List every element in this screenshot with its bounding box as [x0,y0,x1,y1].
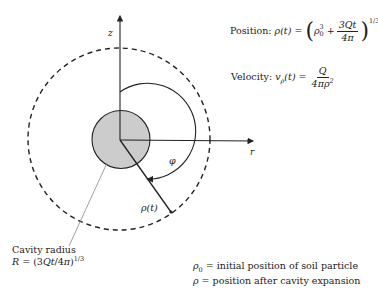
position-equation: Position: ρ(t) = (ρ30 +3Qt4π)1/3 [230,20,378,43]
position-fraction: 3Qt4π [337,20,359,43]
rho0-subscript: 0 [320,31,324,38]
velocity-lhs-rest: (t) = [284,71,306,82]
cavity-leader-line [69,163,107,246]
plus-sign: + [327,25,335,36]
phi-label: φ [169,156,176,166]
legend-text: = initial position of soil particle [203,260,358,271]
z-axis-label: z [108,29,113,38]
velocity-equation: Velocity: vρ(t) = Q4πρ2 [231,66,336,89]
open-paren: ( [305,18,314,43]
formula-mid: /4 [55,256,64,267]
cavity-expansion-diagram: z r φ ρ(t) Position: ρ(t) = (ρ30 +3Qt4π)… [0,0,378,294]
formula-eq: = (3 [19,256,43,267]
velocity-label: Velocity: [231,71,272,82]
formula-exponent: 1/3 [74,255,84,263]
position-exponent: 1/3 [369,17,378,25]
legend-text: = position after cavity expansion [199,275,361,286]
position-denominator: 4π [341,32,353,43]
r-axis-label: r [250,148,254,157]
position-label: Position: [230,25,272,36]
velocity-fraction: Q4πρ2 [312,66,334,89]
close-paren: ) [360,18,369,43]
soil-particle-point [169,210,172,213]
legend-item-final-position: ρ = position after cavity expansion [193,276,360,286]
velocity-numerator: Q [317,66,329,78]
legend-item-initial-position: ρ0 = initial position of soil particle [193,261,358,271]
formula-Qt: Qt [43,256,55,267]
position-numerator: 3Qt [337,20,359,32]
cavity-radius-title: Cavity radius [12,245,76,255]
velocity-denominator: 4πρ2 [312,78,334,89]
cavity-radius-formula: R = (3Qt/4π)1/3 [12,257,84,267]
velocity-denominator-sup: 2 [329,77,333,85]
rho-t-label: ρ(t) [141,203,158,213]
velocity-denominator-base: 4πρ [312,78,330,89]
position-lhs: ρ(t) = [275,25,303,36]
